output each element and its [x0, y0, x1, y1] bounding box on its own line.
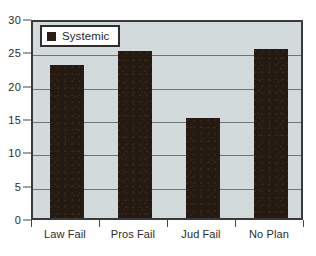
y-tick-label: 0: [15, 214, 21, 226]
legend-swatch-icon: [47, 32, 56, 41]
y-tick-mark: [23, 53, 31, 54]
plot-area: [31, 20, 303, 220]
bar: [186, 118, 220, 218]
x-tick-mark: [303, 220, 304, 227]
y-tick-label: 15: [8, 114, 21, 126]
bar: [118, 51, 152, 218]
bar-chart: 051015202530 Law FailPros FailJud FailNo…: [0, 0, 316, 256]
y-tick-label: 10: [8, 147, 21, 159]
bars-layer: [33, 22, 301, 218]
x-tick-label: Jud Fail: [181, 228, 220, 240]
y-tick-label: 30: [8, 14, 21, 26]
y-tick-label: 5: [15, 181, 21, 193]
y-axis: 051015202530: [0, 0, 31, 256]
y-tick-mark: [23, 153, 31, 154]
legend: Systemic: [40, 25, 120, 47]
x-tick-mark: [99, 220, 100, 227]
x-axis: Law FailPros FailJud FailNo Plan: [31, 228, 303, 252]
y-tick-mark: [23, 120, 31, 121]
y-tick-mark: [23, 86, 31, 87]
y-tick-mark: [23, 20, 31, 21]
y-tick-mark: [23, 186, 31, 187]
y-tick-label: 20: [8, 81, 21, 93]
legend-item-label: Systemic: [62, 30, 109, 42]
x-tick-label: Law Fail: [44, 228, 86, 240]
bar: [50, 65, 84, 218]
x-tick-mark: [31, 220, 32, 227]
x-tick-mark: [167, 220, 168, 227]
x-tick-mark: [235, 220, 236, 227]
x-tick-label: Pros Fail: [111, 228, 155, 240]
y-tick-mark: [23, 220, 31, 221]
bar: [254, 49, 288, 218]
x-tick-label: No Plan: [249, 228, 289, 240]
y-tick-label: 25: [8, 47, 21, 59]
